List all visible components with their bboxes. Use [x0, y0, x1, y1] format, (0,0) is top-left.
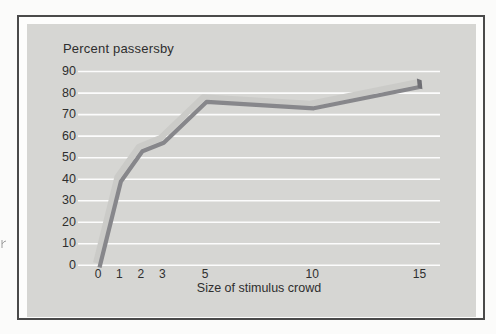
scan-edge-artifact [2, 240, 6, 248]
y-axis-caption: Percent passersby [63, 41, 174, 56]
x-axis-title: Size of stimulus crowd [159, 281, 359, 295]
data-line-top-face [96, 82, 417, 263]
